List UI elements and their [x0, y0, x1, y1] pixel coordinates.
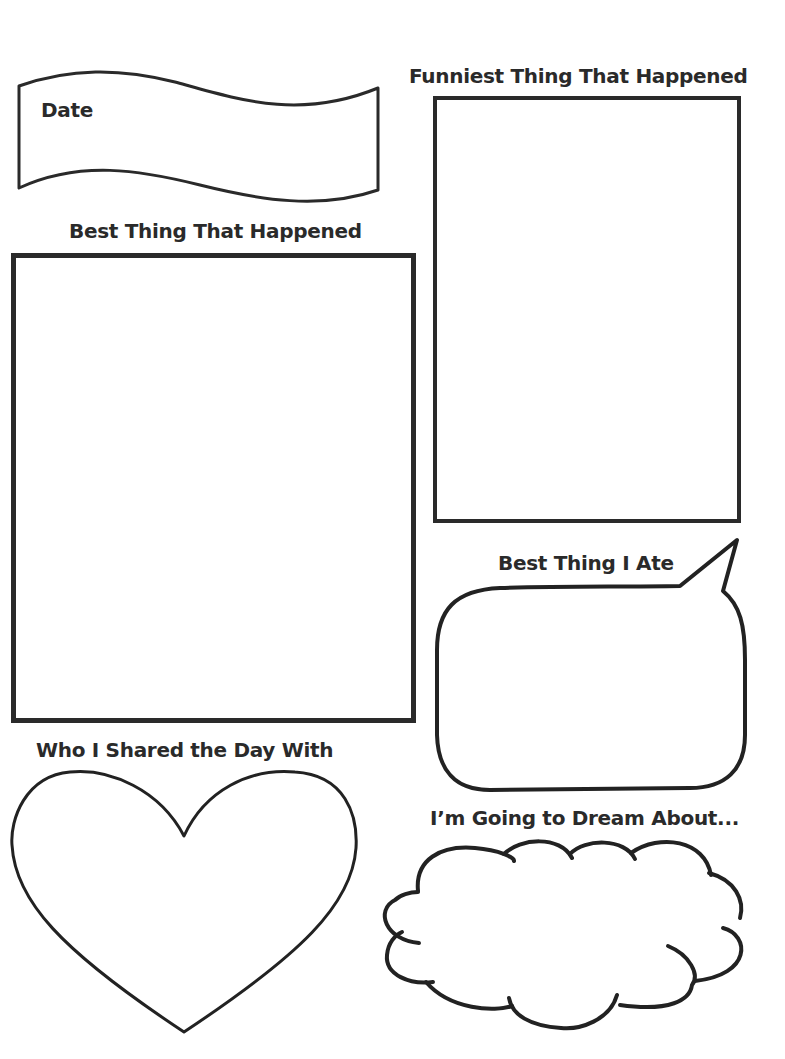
- best-thing-heading: Best Thing That Happened: [69, 219, 362, 243]
- funniest-thing-heading: Funniest Thing That Happened: [409, 64, 748, 88]
- shared-day-heading: Who I Shared the Day With: [36, 738, 333, 762]
- best-thing-ate-field[interactable]: [445, 600, 737, 782]
- date-label: Date: [41, 98, 93, 122]
- dream-about-heading: I’m Going to Dream About...: [430, 806, 739, 830]
- best-thing-ate-heading: Best Thing I Ate: [498, 551, 674, 575]
- dream-about-field[interactable]: [410, 870, 720, 990]
- date-field[interactable]: Date: [19, 80, 378, 190]
- best-thing-box[interactable]: [11, 253, 416, 723]
- shared-day-field[interactable]: [40, 800, 330, 980]
- funniest-thing-box[interactable]: [433, 96, 741, 523]
